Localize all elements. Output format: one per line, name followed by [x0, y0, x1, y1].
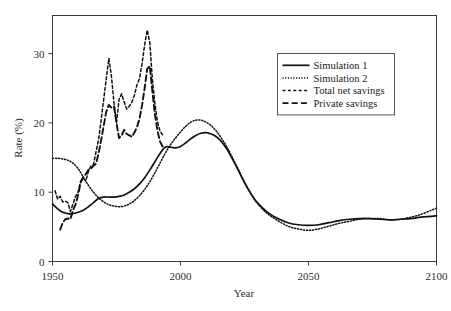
- x-tick-label: 2050: [298, 270, 321, 282]
- y-tick-label: 0: [39, 256, 45, 268]
- legend-label: Simulation 2: [314, 73, 368, 84]
- figure-container: 0102030 1950200020502100 Year Rate (%) S…: [0, 0, 451, 311]
- y-tick-label: 30: [34, 48, 46, 60]
- x-axis-title: Year: [234, 287, 255, 299]
- y-tick-label: 10: [34, 186, 46, 198]
- chart-legend[interactable]: Simulation 1Simulation 2Total net saving…: [278, 54, 395, 115]
- chart-background: [0, 0, 451, 311]
- line-chart: 0102030 1950200020502100 Year Rate (%) S…: [0, 0, 451, 311]
- legend-label: Simulation 1: [314, 60, 368, 71]
- y-tick-label: 20: [34, 117, 46, 129]
- x-tick-label: 2000: [170, 270, 193, 282]
- legend-label: Private savings: [314, 98, 378, 109]
- x-tick-label: 1950: [42, 270, 65, 282]
- legend-label: Total net savings: [314, 85, 385, 96]
- y-axis-title: Rate (%): [12, 118, 25, 158]
- x-tick-label: 2100: [426, 270, 449, 282]
